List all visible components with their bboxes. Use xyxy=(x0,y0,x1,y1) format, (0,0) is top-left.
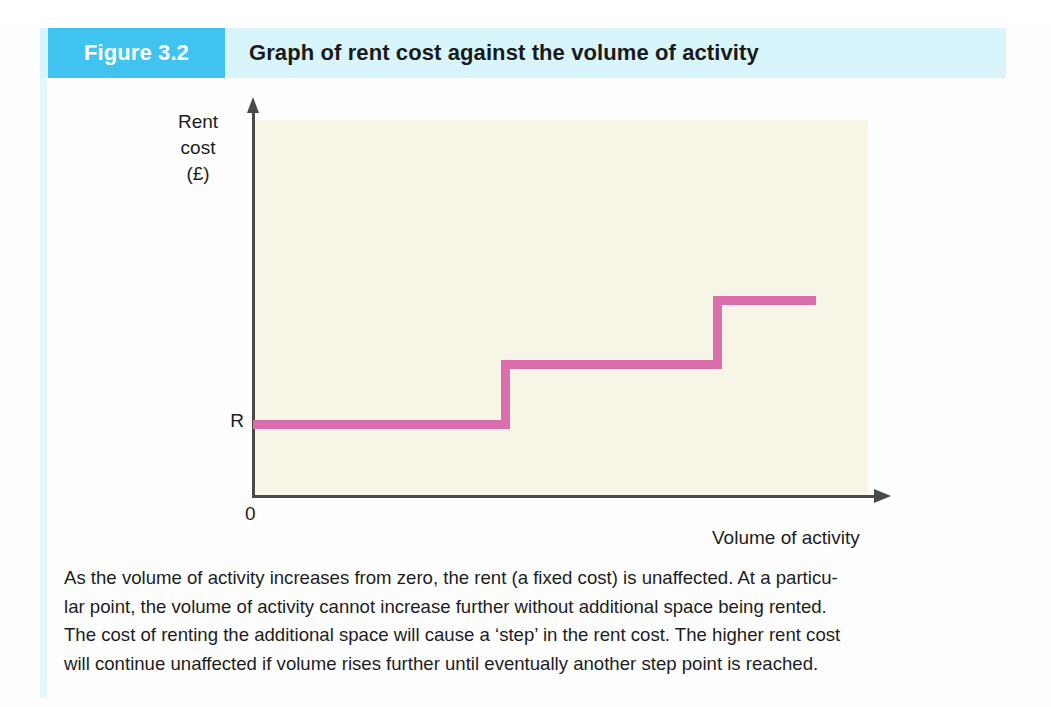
y-axis-line xyxy=(252,110,255,497)
caption-line-2: lar point, the volume of activity cannot… xyxy=(64,593,1009,622)
figure-title: Graph of rent cost against the volume of… xyxy=(249,28,759,78)
caption-line-3: The cost of renting the additional space… xyxy=(64,621,1009,650)
page-top-margin xyxy=(0,0,1051,22)
origin-label: 0 xyxy=(245,503,256,525)
figure-number-label: Figure 3.2 xyxy=(48,28,225,78)
figure-caption: As the volume of activity increases from… xyxy=(64,564,1009,678)
x-axis-line xyxy=(252,495,877,498)
caption-line-1: As the volume of activity increases from… xyxy=(64,564,1009,593)
step-segment-level-1 xyxy=(253,420,510,429)
step-riser-2 xyxy=(713,296,722,369)
figure-chart-area: Rent cost (£) R 0 Volume of activity xyxy=(40,84,1006,554)
y-axis-label: Rent cost (£) xyxy=(153,109,243,187)
step-segment-level-2 xyxy=(501,360,722,369)
step-riser-1 xyxy=(501,360,510,429)
y-axis-arrow-icon xyxy=(247,97,259,113)
plot-background xyxy=(253,120,868,497)
figure-number-tab: Figure 3.2 xyxy=(48,28,225,78)
caption-line-4: will continue unaffected if volume rises… xyxy=(64,650,1009,679)
y-tick-label-r: R xyxy=(216,410,244,432)
figure-page: Figure 3.2 Graph of rent cost against th… xyxy=(0,0,1051,707)
x-axis-arrow-icon xyxy=(874,489,891,503)
x-axis-label: Volume of activity xyxy=(712,527,860,549)
step-segment-level-3 xyxy=(713,296,816,305)
y-axis-label-line-2: cost xyxy=(153,135,243,161)
y-axis-label-line-3: (£) xyxy=(153,161,243,187)
y-axis-label-line-1: Rent xyxy=(153,109,243,135)
